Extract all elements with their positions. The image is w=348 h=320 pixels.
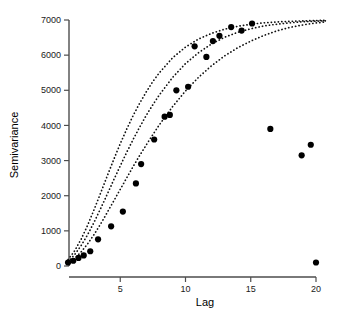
data-point [133,180,139,186]
data-point [81,252,87,258]
y-tick-label: 3000 [41,156,61,166]
data-point [192,43,198,49]
x-tick-label: 5 [118,284,123,294]
data-point [313,259,319,265]
data-point [249,20,255,26]
data-point [108,223,114,229]
y-tick-label: 7000 [41,15,61,25]
data-points-group [65,20,319,265]
data-point [267,126,273,132]
data-point [185,84,191,90]
model-curve-mid-range [68,21,326,262]
data-point [95,236,101,242]
y-axis-title: Semivariance [8,112,20,179]
x-axis-group: 5101520 [69,277,321,294]
x-tick-label: 15 [246,284,256,294]
data-point [216,33,222,39]
y-tick-label: 6000 [41,50,61,60]
model-curves-group [68,20,326,263]
data-point [239,27,245,33]
data-point [87,248,93,254]
data-point [210,38,216,44]
data-point [167,112,173,118]
model-curve-short-range [68,20,326,259]
data-point [173,87,179,93]
data-point [308,142,314,148]
chart-canvas: 01000200030004000500060007000 5101520 La… [0,0,348,320]
model-curve-long-range [68,22,326,263]
data-point [299,152,305,158]
y-tick-label: 4000 [41,121,61,131]
data-point [138,161,144,167]
y-tick-label: 5000 [41,85,61,95]
data-point [228,24,234,30]
x-axis-title: Lag [196,296,214,308]
x-axis-ticks: 5101520 [118,277,321,294]
data-point [70,258,76,264]
data-point [120,208,126,214]
y-tick-label: 0 [56,261,61,271]
data-point [151,136,157,142]
data-point [203,54,209,60]
x-tick-label: 10 [180,284,190,294]
y-tick-label: 1000 [41,226,61,236]
semivariogram-chart: 01000200030004000500060007000 5101520 La… [0,0,348,320]
y-tick-label: 2000 [41,191,61,201]
x-tick-label: 20 [311,284,321,294]
y-axis-ticks: 01000200030004000500060007000 [41,15,69,271]
y-axis-group: 01000200030004000500060007000 [41,15,69,271]
